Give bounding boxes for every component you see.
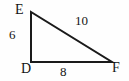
vertex-label-e: E bbox=[15, 3, 24, 17]
side-length-horizontal: 8 bbox=[60, 65, 67, 78]
triangle-figure: E D F 6 8 10 bbox=[0, 0, 129, 81]
side-length-vertical: 6 bbox=[9, 28, 16, 41]
vertex-label-f: F bbox=[112, 61, 120, 75]
side-length-hypotenuse: 10 bbox=[75, 14, 88, 27]
triangle-outline bbox=[31, 12, 112, 62]
vertex-label-d: D bbox=[21, 62, 31, 76]
